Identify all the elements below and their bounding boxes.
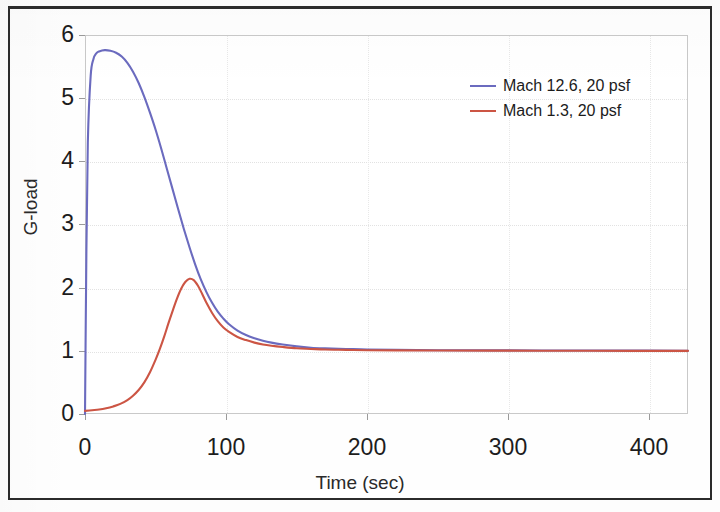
legend-item-mach-1-3: Mach 1.3, 20 psf	[470, 101, 630, 121]
legend: Mach 12.6, 20 psf Mach 1.3, 20 psf	[470, 76, 630, 121]
xtick-label-300: 300	[468, 436, 548, 459]
y-axis-title: G-load	[20, 147, 42, 267]
g-load-vs-time-chart: 6 5 4 3 2 1 0 0 100 200 300 400 G-load T…	[0, 0, 720, 512]
xtick-mark-400	[649, 414, 650, 420]
xtick-mark-200	[367, 414, 368, 420]
xtick-label-0: 0	[45, 436, 125, 459]
ytick-label-2: 2	[28, 276, 74, 299]
ytick-label-6: 6	[28, 23, 74, 46]
xtick-label-400: 400	[609, 436, 689, 459]
ytick-label-0: 0	[28, 402, 74, 425]
x-axis-title: Time (sec)	[0, 472, 720, 494]
legend-color-swatch-red	[470, 110, 496, 112]
legend-color-swatch-blue	[470, 85, 496, 87]
series-line-mach-1-3	[85, 279, 688, 411]
ytick-label-1: 1	[28, 339, 74, 362]
legend-label-mach-12-6: Mach 12.6, 20 psf	[503, 78, 630, 94]
xtick-mark-100	[226, 414, 227, 420]
scanned-figure-page: 6 5 4 3 2 1 0 0 100 200 300 400 G-load T…	[0, 0, 720, 512]
xtick-label-100: 100	[186, 436, 266, 459]
xtick-label-200: 200	[327, 436, 407, 459]
legend-item-mach-12-6: Mach 12.6, 20 psf	[470, 76, 630, 96]
xtick-mark-300	[508, 414, 509, 420]
legend-label-mach-1-3: Mach 1.3, 20 psf	[503, 103, 621, 119]
ytick-label-5: 5	[28, 86, 74, 109]
